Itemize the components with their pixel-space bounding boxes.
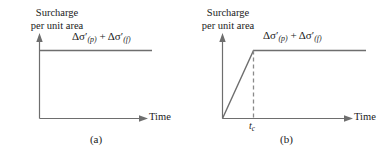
panel-a-x-axis-arrowhead bbox=[139, 115, 148, 121]
panel-a-y-axis-arrowhead bbox=[36, 33, 42, 42]
panel-b-caption: (b) bbox=[190, 133, 383, 145]
panel-b-surcharge-curve bbox=[223, 51, 367, 119]
panel-b-x-axis-arrowhead bbox=[344, 115, 353, 121]
panel-b: Surcharge per unit area Δσ′(p) + Δσ′(f) … bbox=[190, 0, 383, 155]
panel-b-x-axis-label: Time bbox=[354, 111, 376, 124]
panel-b-tc-tick-label: tc bbox=[249, 120, 255, 133]
panel-b-y-axis-arrowhead bbox=[219, 33, 225, 42]
panel-a-plot-area bbox=[0, 0, 192, 155]
panel-a: Surcharge per unit area Δσ′(p) + Δσ′(f) … bbox=[0, 0, 192, 155]
panel-a-caption: (a) bbox=[0, 133, 192, 145]
panel-b-tc-subscript: c bbox=[252, 125, 255, 133]
panel-a-x-axis-label: Time bbox=[149, 111, 171, 124]
panel-b-plot-area bbox=[190, 0, 383, 155]
surcharge-time-figure: Surcharge per unit area Δσ′(p) + Δσ′(f) … bbox=[0, 0, 383, 155]
